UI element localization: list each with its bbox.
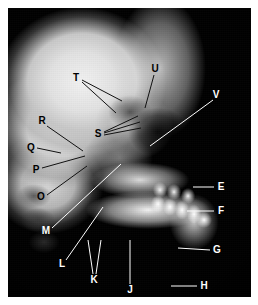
leader-line-v xyxy=(150,100,213,146)
leader-line-m xyxy=(52,164,121,228)
annotation-label-k: K xyxy=(90,275,97,285)
leader-lines xyxy=(37,75,214,286)
annotation-label-o: O xyxy=(37,192,45,202)
leader-line-t xyxy=(82,80,122,101)
annotation-label-g: G xyxy=(213,245,221,255)
leader-line-g xyxy=(178,248,210,250)
leader-line-p xyxy=(42,156,85,168)
leader-line-l xyxy=(66,207,103,260)
annotation-label-f: F xyxy=(218,206,224,216)
annotation-label-e: E xyxy=(218,182,225,192)
annotation-label-s: S xyxy=(95,129,102,139)
annotation-label-p: P xyxy=(33,165,40,175)
annotation-label-t: T xyxy=(73,73,79,83)
annotation-label-j: J xyxy=(127,285,133,295)
leader-line-q xyxy=(37,148,61,153)
annotation-label-u: U xyxy=(151,64,158,74)
annotation-label-l: L xyxy=(59,259,65,269)
annotation-label-m: M xyxy=(42,226,50,236)
leader-line-k xyxy=(96,240,101,274)
leader-line-o xyxy=(47,166,87,195)
annotation-overlay xyxy=(0,0,258,305)
annotation-label-v: V xyxy=(213,90,220,100)
annotation-label-h: H xyxy=(200,281,207,291)
leader-line-k xyxy=(88,240,93,274)
leader-line-t xyxy=(82,82,116,113)
annotation-label-r: R xyxy=(38,116,45,126)
annotation-label-q: Q xyxy=(27,143,35,153)
leader-line-r xyxy=(47,126,83,151)
cephalometric-figure: TUVRSQPOMLKJEFGH xyxy=(0,0,258,305)
leader-line-u xyxy=(145,75,154,108)
